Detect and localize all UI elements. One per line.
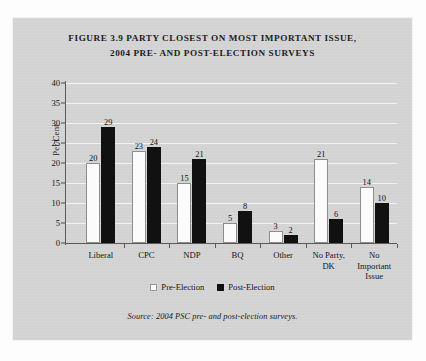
bar-value-label: 15 xyxy=(180,174,188,183)
bar-value-label: 14 xyxy=(363,178,371,187)
legend-label-pre-election: Pre-Election xyxy=(161,282,204,292)
y-axis-tick-label: 5 xyxy=(56,218,60,228)
y-axis-tick-label: 20 xyxy=(51,158,60,168)
x-axis-category-label: CPC xyxy=(124,250,170,261)
chart-legend: Pre-Election Post-Election xyxy=(13,282,412,292)
x-axis-line xyxy=(65,243,397,244)
bar-pre-election: 23 xyxy=(132,151,146,243)
bar-post-election: 29 xyxy=(101,127,115,243)
x-axis-tick-mark xyxy=(351,244,352,248)
bar-post-election: 10 xyxy=(375,203,389,243)
legend-item-post-election: Post-Election xyxy=(217,282,274,292)
bar-value-label: 6 xyxy=(334,210,338,219)
bar-value-label: 8 xyxy=(243,202,247,211)
bar-value-label: 21 xyxy=(317,150,325,159)
bar-group: 32 xyxy=(268,83,299,243)
bar-value-label: 21 xyxy=(195,150,203,159)
bar-pre-election: 15 xyxy=(177,183,191,243)
x-axis-category-label: No Important Issue xyxy=(351,250,397,282)
figure-root: FIGURE 3.9 PARTY CLOSEST ON MOST IMPORTA… xyxy=(0,0,426,361)
bar-value-label: 20 xyxy=(89,154,97,163)
bar-pre-election: 5 xyxy=(223,223,237,243)
x-axis-category-label: No Party, DK xyxy=(306,250,352,271)
bar-value-label: 5 xyxy=(228,214,232,223)
bar-group: 58 xyxy=(222,83,253,243)
bar-value-label: 3 xyxy=(273,222,277,231)
bar-post-election: 8 xyxy=(238,211,252,243)
legend-swatch-black-square-icon xyxy=(217,284,224,291)
x-axis-tick-mark xyxy=(397,244,398,248)
x-axis-category-label: Liberal xyxy=(78,250,124,261)
bar-post-election: 2 xyxy=(284,235,298,243)
legend-swatch-white-square-icon xyxy=(150,284,157,291)
x-axis-tick-mark xyxy=(124,244,125,248)
bar-pre-election: 21 xyxy=(314,159,328,243)
x-axis-tick-mark xyxy=(215,244,216,248)
y-axis-tick-label: 0 xyxy=(56,238,60,248)
source-note: Source: 2004 PSC pre- and post-election … xyxy=(13,312,412,321)
y-axis-tick-label: 40 xyxy=(51,78,60,88)
bar-post-election: 24 xyxy=(147,147,161,243)
y-axis-tick-label: 15 xyxy=(51,178,60,188)
bar-group: 1521 xyxy=(176,83,207,243)
bar-value-label: 23 xyxy=(135,142,143,151)
legend-label-post-election: Post-Election xyxy=(228,282,274,292)
legend-item-pre-election: Pre-Election xyxy=(150,282,204,292)
x-axis-category-label: BQ xyxy=(215,250,261,261)
bar-value-label: 2 xyxy=(288,226,292,235)
x-axis-category-label: NDP xyxy=(169,250,215,261)
bar-value-label: 10 xyxy=(378,194,386,203)
y-axis-tick-label: 25 xyxy=(51,138,60,148)
figure-title-line-1: FIGURE 3.9 PARTY CLOSEST ON MOST IMPORTA… xyxy=(13,31,412,46)
x-axis-tick-mark xyxy=(169,244,170,248)
figure-title-line-2: 2004 PRE- AND POST-ELECTION SURVEYS xyxy=(13,46,412,61)
x-axis-tick-mark xyxy=(306,244,307,248)
bar-value-label: 29 xyxy=(104,118,112,127)
y-axis-tick-label: 35 xyxy=(51,98,60,108)
figure-panel: FIGURE 3.9 PARTY CLOSEST ON MOST IMPORTA… xyxy=(13,18,412,340)
plot-area: 05101520253035402029Liberal2324CPC1521ND… xyxy=(65,83,397,243)
y-axis-line xyxy=(65,81,66,245)
x-axis-category-label: Other xyxy=(260,250,306,261)
figure-title: FIGURE 3.9 PARTY CLOSEST ON MOST IMPORTA… xyxy=(13,31,412,60)
bar-value-label: 24 xyxy=(150,138,158,147)
chart-plot: Per Cent 05101520253035402029Liberal2324… xyxy=(52,83,397,253)
bar-group: 2324 xyxy=(131,83,162,243)
y-axis-tick-label: 30 xyxy=(51,118,60,128)
bar-group: 1410 xyxy=(359,83,390,243)
bar-pre-election: 3 xyxy=(269,231,283,243)
bar-group: 2029 xyxy=(85,83,116,243)
bar-group: 216 xyxy=(313,83,344,243)
x-axis-tick-mark xyxy=(260,244,261,248)
bar-pre-election: 20 xyxy=(86,163,100,243)
bar-post-election: 21 xyxy=(192,159,206,243)
bar-post-election: 6 xyxy=(329,219,343,243)
bar-pre-election: 14 xyxy=(360,187,374,243)
y-axis-tick-label: 10 xyxy=(51,198,60,208)
